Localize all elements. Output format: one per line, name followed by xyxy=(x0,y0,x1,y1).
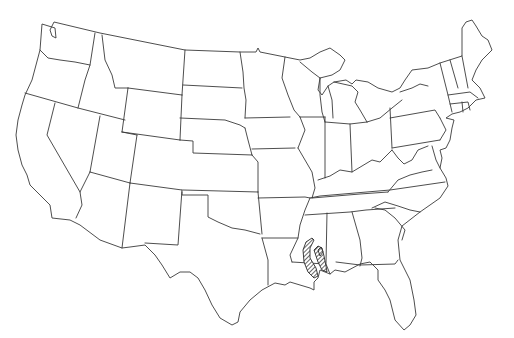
us-outline xyxy=(16,20,492,330)
us-map: Hatched range area xyxy=(0,0,514,338)
map-container: Contiguous United States outline map xyxy=(0,0,514,338)
